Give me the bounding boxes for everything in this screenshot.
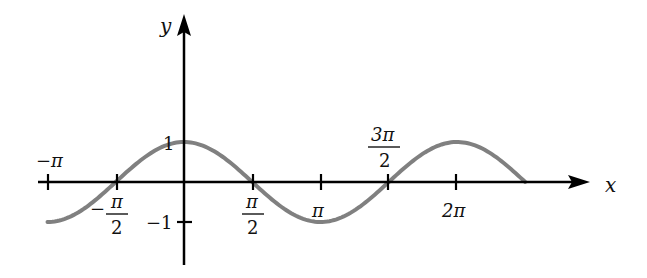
tick-label-pi: π bbox=[311, 200, 325, 221]
x-axis-label: x bbox=[605, 173, 616, 197]
tick-label-half-pi-den: 2 bbox=[247, 217, 258, 238]
tick-label-three-half-pi-num: 3π bbox=[371, 124, 395, 145]
tick-label-y-neg-one: −1 bbox=[146, 212, 173, 233]
tick-label-neg-half-pi-num: π bbox=[110, 191, 124, 212]
tick-label-two-pi: 2π bbox=[441, 200, 466, 221]
tick-label-three-half-pi-den: 2 bbox=[379, 150, 390, 171]
tick-label-neg-half-pi-sign: − bbox=[90, 198, 105, 219]
tick-label-neg-pi: −π bbox=[36, 150, 64, 171]
y-axis-label: y bbox=[159, 14, 172, 38]
tick-label-half-pi-num: π bbox=[245, 191, 259, 212]
tick-label-y-one: 1 bbox=[163, 133, 174, 154]
cosine-graph: x y −π − π 2 π 2 π 3π 2 2π 1 −1 bbox=[0, 0, 647, 278]
tick-label-neg-half-pi-den: 2 bbox=[111, 217, 122, 238]
